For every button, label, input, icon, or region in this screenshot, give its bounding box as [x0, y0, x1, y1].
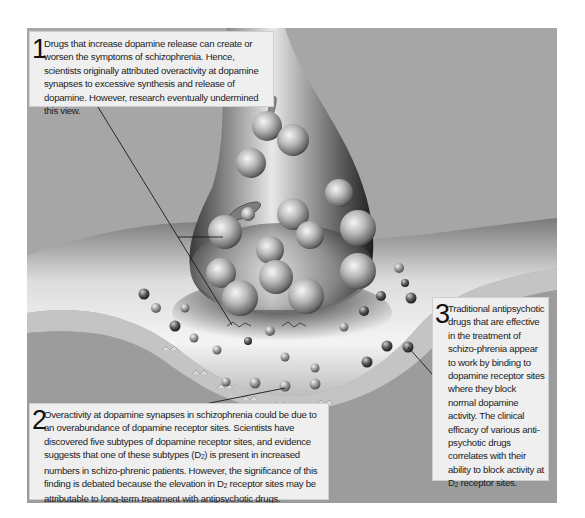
callout-3: 3 Traditional antipsychotic drugs that a… [433, 298, 548, 480]
callout-1: 1 Drugs that increase dopamine release c… [30, 32, 273, 106]
callout-3-text: Traditional antipsychotic drugs that are… [448, 302, 546, 492]
callout-1-text: Drugs that increase dopamine release can… [44, 37, 273, 117]
callout-3-text-part2: receptor sites. [458, 477, 517, 488]
callout-2-text: Overactivity at dopamine synapses in sch… [44, 408, 326, 503]
figure-panel: 1 Drugs that increase dopamine release c… [27, 28, 557, 503]
callout-3-text-part1: Traditional antipsychotic drugs that are… [448, 303, 545, 488]
callout-2: 2 Overactivity at dopamine synapses in s… [30, 404, 328, 499]
